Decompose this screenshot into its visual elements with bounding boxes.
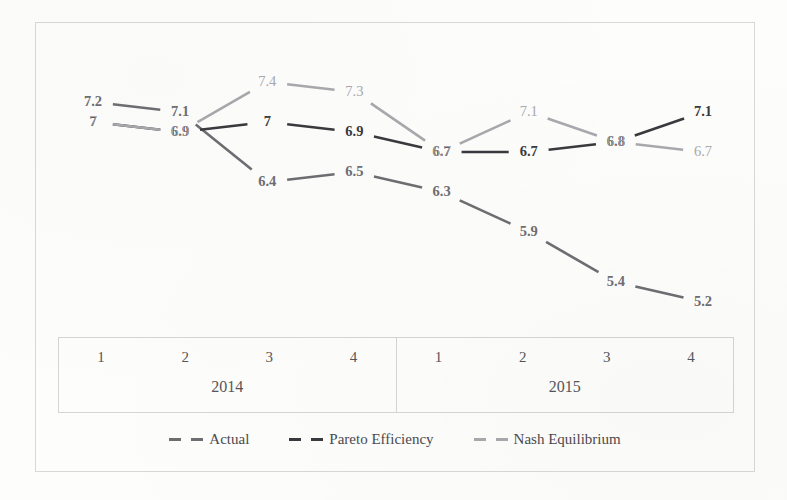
series-segment bbox=[374, 136, 422, 147]
quarter-label: 1 bbox=[397, 349, 481, 366]
series-segment bbox=[113, 104, 160, 109]
year-row-2014: 2014 bbox=[59, 376, 396, 412]
data-point-label: 7.3 bbox=[345, 83, 363, 99]
year-label: 2015 bbox=[549, 378, 581, 396]
data-point-label: 7.1 bbox=[171, 103, 189, 119]
data-point-label: 7.1 bbox=[694, 103, 712, 119]
data-point-label: 6.7 bbox=[433, 143, 451, 159]
axis-group-2014: 1 2 3 4 2014 bbox=[59, 338, 397, 412]
data-point-label: 6.3 bbox=[433, 183, 451, 199]
chart-legend: Actual Pareto Efficiency Nash Equilibriu… bbox=[35, 424, 755, 454]
data-point-label: 6.5 bbox=[345, 163, 363, 179]
data-point-label: 6.9 bbox=[345, 123, 363, 139]
series-segment bbox=[287, 174, 334, 179]
plot-area: 7.27.16.46.56.35.95.45.276.976.96.76.76.… bbox=[35, 22, 755, 332]
data-point-label: 5.2 bbox=[694, 293, 712, 309]
quarter-label: 2 bbox=[481, 349, 565, 366]
quarter-row-2015: 1 2 3 4 bbox=[397, 338, 734, 376]
series-segment bbox=[460, 200, 511, 223]
legend-dash-icon bbox=[169, 438, 203, 441]
data-point-label: 6.9 bbox=[171, 123, 189, 139]
data-point-label: 7 bbox=[264, 113, 271, 129]
series-segment bbox=[635, 119, 684, 136]
x-axis-table: 1 2 3 4 2014 1 2 3 4 2015 bbox=[58, 337, 734, 413]
series-segment bbox=[287, 124, 334, 129]
series-segment bbox=[287, 84, 334, 89]
series-segment bbox=[197, 92, 249, 122]
data-point-label: 7.1 bbox=[520, 103, 538, 119]
quarter-label: 2 bbox=[143, 349, 227, 366]
quarter-label: 1 bbox=[59, 349, 143, 366]
legend-item-pareto-efficiency[interactable]: Pareto Efficiency bbox=[289, 431, 433, 448]
legend-label: Nash Equilibrium bbox=[514, 431, 621, 448]
quarter-label: 4 bbox=[649, 349, 733, 366]
series-segment bbox=[200, 124, 247, 129]
line-chart-svg: 7.27.16.46.56.35.95.45.276.976.96.76.76.… bbox=[35, 22, 755, 332]
data-point-label: 6.4 bbox=[258, 173, 276, 189]
series-segment bbox=[636, 144, 683, 149]
quarter-label: 3 bbox=[565, 349, 649, 366]
data-point-label: 5.9 bbox=[520, 223, 538, 239]
legend-label: Pareto Efficiency bbox=[329, 431, 433, 448]
data-point-label: 7.2 bbox=[84, 93, 102, 109]
quarter-label: 4 bbox=[311, 349, 395, 366]
data-point-label: 7 bbox=[89, 113, 96, 129]
series-segment bbox=[371, 103, 425, 140]
quarter-label: 3 bbox=[227, 349, 311, 366]
series-segment bbox=[196, 125, 252, 170]
data-point-label: 6.7 bbox=[694, 143, 712, 159]
axis-group-2015: 1 2 3 4 2015 bbox=[397, 338, 734, 412]
legend-dash-icon bbox=[474, 438, 508, 441]
data-point-label: 7.4 bbox=[258, 73, 277, 89]
series-segment bbox=[460, 120, 511, 143]
series-segment bbox=[548, 119, 597, 136]
chart-page: 7.27.16.46.56.35.95.45.276.976.96.76.76.… bbox=[0, 0, 787, 500]
data-point-label: 6.8 bbox=[607, 133, 625, 149]
legend-label: Actual bbox=[209, 431, 249, 448]
series-segment bbox=[635, 286, 683, 297]
series-segment bbox=[549, 144, 596, 149]
year-label: 2014 bbox=[211, 378, 243, 396]
data-point-label: 5.4 bbox=[607, 273, 625, 289]
series-segment bbox=[546, 242, 598, 272]
legend-dash-icon bbox=[289, 438, 323, 441]
series-segment bbox=[113, 124, 160, 129]
legend-item-actual[interactable]: Actual bbox=[169, 431, 249, 448]
legend-item-nash-equilibrium[interactable]: Nash Equilibrium bbox=[474, 431, 621, 448]
year-row-2015: 2015 bbox=[397, 376, 734, 412]
quarter-row-2014: 1 2 3 4 bbox=[59, 338, 396, 376]
data-point-label: 6.7 bbox=[520, 143, 538, 159]
series-segment bbox=[374, 176, 422, 187]
